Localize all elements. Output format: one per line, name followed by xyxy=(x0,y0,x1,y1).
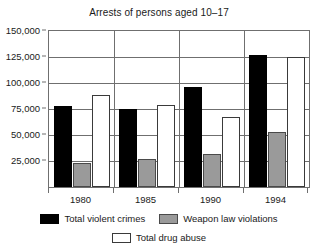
x-tick-label-1994: 1994 xyxy=(265,194,286,205)
legend-swatch-icon-2 xyxy=(159,214,178,224)
y-tick-label: 75,000 xyxy=(11,103,40,114)
legend-label: Weapon law violations xyxy=(183,213,277,224)
x-tick-mark xyxy=(113,188,114,193)
x-tick-mark xyxy=(243,188,244,193)
y-tick-label: 150,000 xyxy=(6,25,40,36)
bar-1994-2 xyxy=(268,132,286,187)
legend-label: Total drug abuse xyxy=(136,232,206,243)
legend-label: Total violent crimes xyxy=(64,213,145,224)
bar-1980-1 xyxy=(54,106,72,187)
x-tick-label-1980: 1980 xyxy=(70,194,91,205)
x-tick-mark xyxy=(307,188,308,193)
bar-1994-1 xyxy=(249,55,267,187)
group-divider xyxy=(244,31,245,187)
legend-entry-1[interactable]: Total violent crimes xyxy=(40,213,145,224)
bar-1980-3 xyxy=(92,95,110,187)
y-tick-mark xyxy=(42,56,46,57)
group-divider xyxy=(179,31,180,187)
y-tick-mark xyxy=(42,134,46,135)
plot-area xyxy=(48,30,310,188)
y-tick-mark xyxy=(42,30,46,31)
legend-row-2: Total drug abuse xyxy=(0,228,318,247)
x-tick-label-1985: 1985 xyxy=(135,194,156,205)
legend-swatch-icon-1 xyxy=(40,214,59,224)
x-tick-label-1990: 1990 xyxy=(200,194,221,205)
bar-chart-figure: Arrests of persons aged 10–17 25,00050,0… xyxy=(0,0,318,250)
bar-1985-2 xyxy=(138,159,156,187)
y-tick-label: 100,000 xyxy=(6,77,40,88)
group-divider xyxy=(114,31,115,187)
y-tick-mark xyxy=(42,108,46,109)
bar-1990-3 xyxy=(222,117,240,187)
bar-1980-2 xyxy=(73,163,91,187)
y-tick-label: 50,000 xyxy=(11,129,40,140)
legend-row-1: Total violent crimesWeapon law violation… xyxy=(0,209,318,228)
y-tick-mark xyxy=(42,160,46,161)
legend-swatch-icon-3 xyxy=(112,233,131,243)
y-tick-mark xyxy=(42,82,46,83)
bar-1994-3 xyxy=(287,57,305,187)
bar-1990-1 xyxy=(184,87,202,187)
y-axis: 25,00050,00075,000100,000125,000150,000 xyxy=(0,30,46,188)
bar-1990-2 xyxy=(203,154,221,187)
x-tick-mark xyxy=(48,188,49,193)
y-tick-label: 125,000 xyxy=(6,51,40,62)
legend-entry-2[interactable]: Weapon law violations xyxy=(159,213,277,224)
x-tick-mark xyxy=(178,188,179,193)
bar-1985-1 xyxy=(119,109,137,187)
x-axis: 1980198519901994 xyxy=(48,188,310,208)
chart-legend: Total violent crimesWeapon law violation… xyxy=(0,209,318,247)
chart-title: Arrests of persons aged 10–17 xyxy=(0,7,318,18)
bar-1985-3 xyxy=(157,105,175,187)
legend-entry-3[interactable]: Total drug abuse xyxy=(112,232,206,243)
y-tick-label: 25,000 xyxy=(11,155,40,166)
